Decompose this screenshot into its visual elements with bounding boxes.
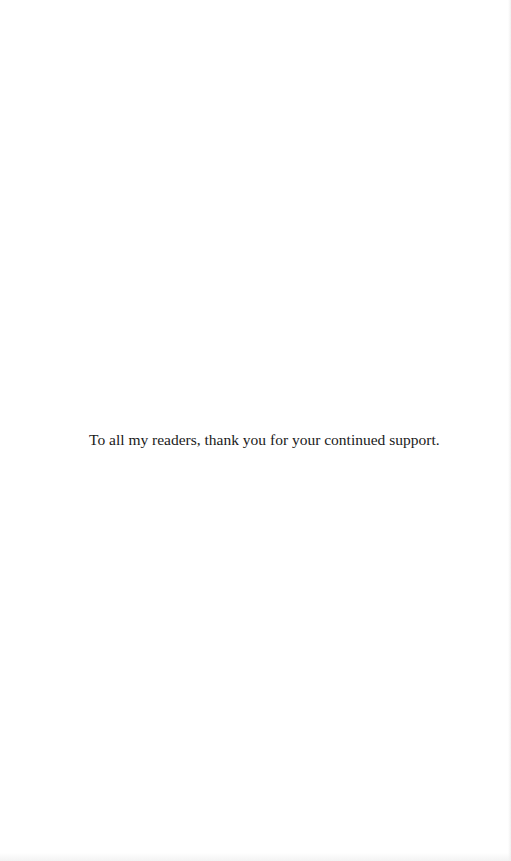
book-page: To all my readers, thank you for your co… (0, 0, 511, 861)
page-edge-shadow-bottom (0, 853, 511, 861)
dedication-text: To all my readers, thank you for your co… (89, 430, 429, 450)
